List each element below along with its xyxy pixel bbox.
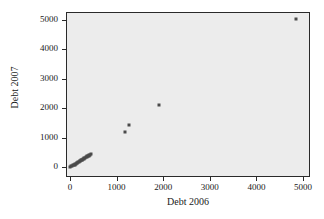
x-axis-tick-label: 4000	[234, 182, 278, 192]
x-axis-tick-label: 2000	[141, 182, 185, 192]
x-axis-tick-mark	[210, 177, 211, 181]
y-axis-title: Debt 2007	[9, 43, 20, 133]
data-point	[89, 153, 92, 156]
data-point	[123, 131, 126, 134]
x-axis-title: Debt 2006	[66, 196, 310, 207]
plot-area	[66, 12, 310, 177]
y-axis-tick-label: 5000	[14, 14, 58, 24]
data-point	[157, 103, 160, 106]
y-axis-tick-label: 4000	[14, 43, 58, 53]
x-axis-tick-mark	[117, 177, 118, 181]
x-axis-tick-mark	[163, 177, 164, 181]
y-axis-tick-label: 0	[14, 161, 58, 171]
y-axis-tick-mark	[62, 138, 66, 139]
y-axis-tick-mark	[62, 167, 66, 168]
y-axis-tick-mark	[62, 108, 66, 109]
y-axis-tick-label: 1000	[14, 132, 58, 142]
x-axis-tick-label: 1000	[95, 182, 139, 192]
x-axis-tick-label: 5000	[281, 182, 324, 192]
x-axis-tick-mark	[70, 177, 71, 181]
y-axis-tick-label: 3000	[14, 73, 58, 83]
scatter-plot-figure: 0100020003000400050000100020003000400050…	[0, 0, 324, 219]
data-point	[127, 124, 130, 127]
x-axis-tick-label: 0	[48, 182, 92, 192]
x-axis-tick-label: 3000	[188, 182, 232, 192]
y-axis-tick-mark	[62, 49, 66, 50]
y-axis-tick-mark	[62, 79, 66, 80]
x-axis-tick-mark	[303, 177, 304, 181]
y-axis-tick-mark	[62, 20, 66, 21]
y-axis-tick-label: 2000	[14, 102, 58, 112]
x-axis-tick-mark	[256, 177, 257, 181]
data-point	[295, 18, 298, 21]
